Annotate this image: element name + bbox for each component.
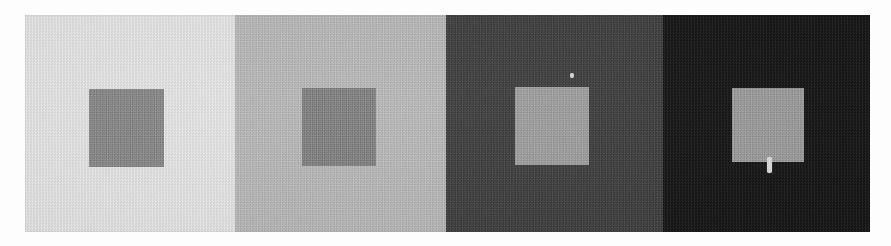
square-1 bbox=[89, 89, 164, 167]
contrast-figure bbox=[0, 0, 891, 246]
figure-plate bbox=[25, 15, 870, 232]
panel-darkest bbox=[663, 15, 870, 232]
square-4 bbox=[732, 88, 804, 162]
panel-light bbox=[235, 15, 446, 232]
square-3 bbox=[515, 87, 589, 165]
scan-speck-icon bbox=[570, 73, 574, 78]
panel-dark bbox=[446, 15, 663, 232]
square-2 bbox=[302, 88, 376, 166]
panel-lightest bbox=[25, 15, 235, 232]
scan-mark-icon bbox=[767, 157, 772, 173]
